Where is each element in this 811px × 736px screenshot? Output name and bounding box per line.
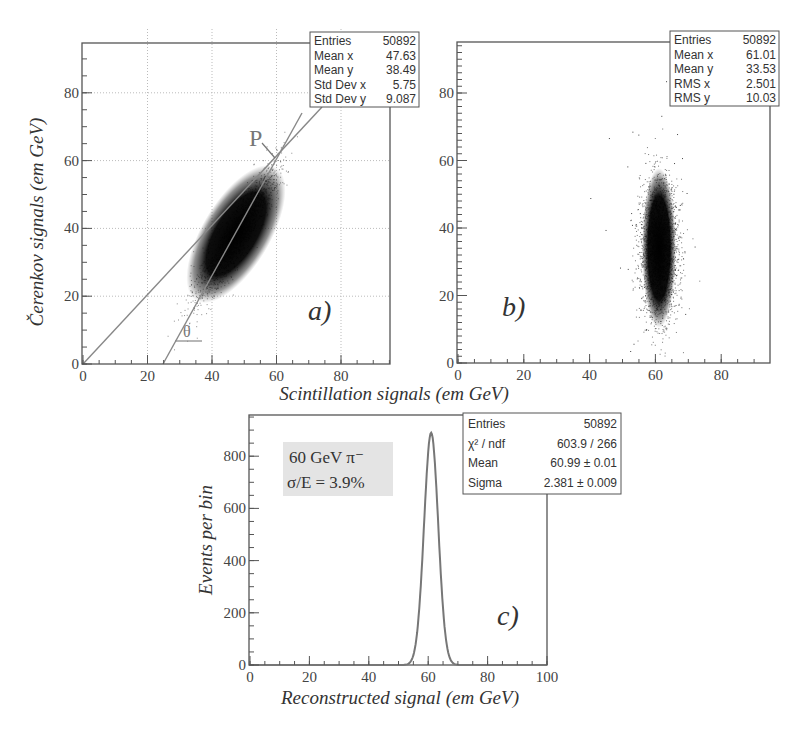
y-tick-label: 0 xyxy=(72,356,80,372)
stats-value: 10.03 xyxy=(746,91,776,105)
x-tick-label: 0 xyxy=(454,367,462,383)
y-tick-label: 80 xyxy=(439,85,454,101)
x-tick-label: 80 xyxy=(334,368,349,384)
legend-box: 60 GeV π⁻ σ/E = 3.9% xyxy=(283,442,393,496)
panel-b: 020406080020406080 b) Entries50892Mean x… xyxy=(439,31,779,383)
stats-label: Mean xyxy=(468,456,498,470)
stats-label: Mean x xyxy=(314,49,353,63)
stats-label: Sigma xyxy=(468,476,502,490)
stats-value: 2.501 xyxy=(746,77,776,91)
y-tick-label: 600 xyxy=(224,500,247,516)
legend-resolution: σ/E = 3.9% xyxy=(287,473,365,492)
stats-label: Entries xyxy=(314,34,351,48)
scatter-core xyxy=(167,150,306,319)
y-tick-label: 20 xyxy=(439,288,454,304)
diagonal-line xyxy=(83,107,322,364)
legend-beam: 60 GeV π⁻ xyxy=(289,448,364,467)
stats-label: Mean y xyxy=(674,62,713,76)
y-tick-label: 60 xyxy=(439,153,454,169)
y-tick-label: 20 xyxy=(64,288,79,304)
stats-value: 50892 xyxy=(743,33,777,47)
x-axis-label-shared: Scintillation signals (em GeV) xyxy=(279,383,509,405)
theta-label: θ xyxy=(183,323,191,340)
stats-value: 50892 xyxy=(584,417,618,431)
x-tick-label: 80 xyxy=(480,669,495,685)
stats-value: 603.9 / 266 xyxy=(557,437,617,451)
y-tick-label: 60 xyxy=(64,153,79,169)
stats-value: 2.381 ± 0.009 xyxy=(544,476,618,490)
y-tick-label: 80 xyxy=(64,85,79,101)
stats-label: RMS x xyxy=(674,77,710,91)
point-p-label: P xyxy=(249,125,262,151)
stats-label: Mean x xyxy=(674,48,713,62)
stats-box: Entries50892χ² / ndf603.9 / 266Mean60.99… xyxy=(463,413,621,494)
y-tick-label: 40 xyxy=(64,220,79,236)
stats-value: 33.53 xyxy=(746,62,776,76)
stats-label: Entries xyxy=(674,33,711,47)
x-axis-label: Reconstructed signal (em GeV) xyxy=(280,687,519,709)
panel-label: b) xyxy=(502,291,525,322)
stats-label: Std Dev y xyxy=(314,92,366,106)
stats-box: Entries50892Mean x61.01Mean y33.53RMS x2… xyxy=(670,31,779,106)
stats-value: 50892 xyxy=(383,34,417,48)
x-tick-label: 40 xyxy=(582,367,597,383)
y-tick-label: 200 xyxy=(224,605,247,621)
y-tick-label: 40 xyxy=(439,220,454,236)
stats-value: 5.75 xyxy=(393,78,417,92)
x-tick-label: 60 xyxy=(421,669,436,685)
y-tick-label: 0 xyxy=(447,355,455,371)
stats-value: 61.01 xyxy=(746,48,776,62)
y-tick-label: 800 xyxy=(224,448,247,464)
x-tick-label: 20 xyxy=(516,367,531,383)
x-tick-label: 0 xyxy=(79,368,87,384)
scatter-core xyxy=(642,168,676,328)
panel-label: a) xyxy=(308,295,331,326)
y-tick-label: 400 xyxy=(224,553,247,569)
x-tick-label: 20 xyxy=(302,669,317,685)
p-pointer xyxy=(262,143,275,158)
x-tick-label: 60 xyxy=(269,368,284,384)
x-tick-label: 20 xyxy=(140,368,155,384)
stats-label: Std Dev x xyxy=(314,78,366,92)
y-axis-label: Events per bin xyxy=(195,485,216,596)
x-tick-label: 40 xyxy=(361,669,376,685)
x-tick-label: 60 xyxy=(648,367,663,383)
stats-label: χ² / ndf xyxy=(468,437,506,451)
panel-label: c) xyxy=(497,600,519,631)
stats-box: Entries50892Mean x47.63Mean y38.49Std De… xyxy=(310,32,419,107)
figure-canvas: θ P 020406080020406080 a) Entries50892Me… xyxy=(0,0,811,736)
stats-label: Mean y xyxy=(314,63,353,77)
stats-label: RMS y xyxy=(674,91,710,105)
stats-value: 60.99 ± 0.01 xyxy=(550,456,617,470)
x-tick-label: 100 xyxy=(536,669,559,685)
stats-label: Entries xyxy=(468,417,505,431)
y-tick-label: 0 xyxy=(239,657,247,673)
y-axis-label: Čerenkov signals (em GeV) xyxy=(26,118,48,327)
x-tick-label: 80 xyxy=(714,367,729,383)
stats-value: 9.087 xyxy=(386,92,416,106)
panel-c: 0204060801000200400600800 60 GeV π⁻ σ/E … xyxy=(195,413,621,709)
x-tick-label: 0 xyxy=(246,669,254,685)
panel-a: θ P 020406080020406080 a) Entries50892Me… xyxy=(26,29,419,384)
stats-value: 47.63 xyxy=(386,49,416,63)
x-tick-label: 40 xyxy=(205,368,220,384)
stats-value: 38.49 xyxy=(386,63,416,77)
